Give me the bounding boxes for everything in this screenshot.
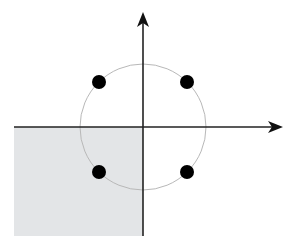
constellation-point-qII bbox=[92, 75, 106, 89]
constellation-point-qIV bbox=[180, 165, 194, 179]
shaded-third-quadrant bbox=[14, 127, 143, 236]
constellation-point-qIII bbox=[92, 165, 106, 179]
constellation-point-qI bbox=[180, 75, 194, 89]
constellation-diagram bbox=[0, 0, 296, 246]
